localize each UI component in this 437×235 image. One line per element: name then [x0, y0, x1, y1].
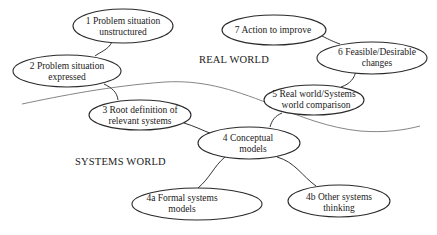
node-5-world-comparison: 5 Real world/Systems world comparison — [264, 85, 364, 115]
node-3-line1: 3 Root definition of — [102, 105, 178, 115]
node-4b-line1: 4b Other systems — [306, 192, 372, 202]
node-7-action-to-improve: 7 Action to improve — [222, 15, 326, 45]
region-label-systems-world: SYSTEMS WORLD — [75, 156, 166, 167]
node-4b-other-systems-thinking: 4b Other systems thinking — [288, 185, 390, 217]
region-label-real-world: REAL WORLD — [199, 54, 269, 65]
node-1-line1: 1 Problem situation — [86, 16, 161, 26]
node-6-feasible-desirable-changes: 6 Feasible/Desirable changes — [317, 42, 427, 74]
node-1-problem-unstructured: 1 Problem situation unstructured — [73, 9, 173, 43]
node-5-line2: world comparison — [282, 100, 351, 110]
edge-4-4a — [198, 157, 225, 188]
edge-1-2 — [95, 42, 112, 56]
world-boundary-line — [22, 82, 420, 132]
edge-3-4 — [184, 123, 212, 134]
node-2-line1: 2 Problem situation — [30, 61, 105, 71]
node-7-line1: 7 Action to improve — [235, 25, 311, 35]
edge-4-4b — [277, 157, 316, 186]
edge-4-5 — [270, 113, 282, 127]
node-6-line2: changes — [362, 58, 393, 68]
node-4a-line2: models — [168, 204, 196, 214]
edge-6-7 — [322, 36, 340, 44]
node-4-line2: models — [239, 144, 267, 154]
node-5-line1: 5 Real world/Systems — [272, 89, 356, 99]
node-4a-formal-systems-models: 4a Formal systems models — [132, 188, 262, 220]
node-3-root-definition: 3 Root definition of relevant systems — [89, 100, 191, 130]
node-4-line1: 4 Conceptual — [223, 133, 274, 143]
edge-2-3 — [104, 84, 118, 100]
node-1-line2: unstructured — [99, 27, 147, 37]
node-4-conceptual-models: 4 Conceptual models — [198, 127, 300, 159]
node-3-line2: relevant systems — [108, 116, 171, 126]
node-2-line2: expressed — [48, 72, 86, 82]
ssm-diagram: REAL WORLD SYSTEMS WORLD 1 Problem situa… — [0, 0, 437, 235]
node-4b-line2: thinking — [323, 203, 355, 213]
node-6-line1: 6 Feasible/Desirable — [338, 47, 416, 57]
node-2-problem-expressed: 2 Problem situation expressed — [13, 55, 121, 87]
node-4a-line1: 4a Formal systems — [146, 193, 218, 203]
